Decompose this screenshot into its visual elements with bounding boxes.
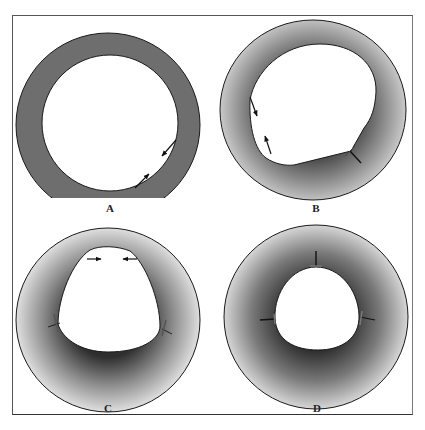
panel-label-c: C xyxy=(104,402,112,414)
panel-b xyxy=(220,20,406,200)
figure-canvas xyxy=(0,0,425,430)
panel-label-b: B xyxy=(312,202,319,214)
marker-icon xyxy=(274,314,275,324)
panel-label-d: D xyxy=(313,402,321,414)
lumen-a xyxy=(42,55,178,191)
panel-label-a: A xyxy=(106,202,114,214)
panel-a xyxy=(16,33,200,217)
marker-icon xyxy=(260,319,275,320)
panel-c xyxy=(16,228,200,412)
panel-d xyxy=(224,225,408,409)
